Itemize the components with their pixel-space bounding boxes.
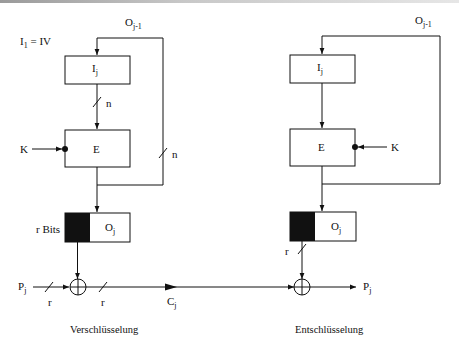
dec-xor-icon xyxy=(294,279,310,295)
dec-key-label: K xyxy=(391,142,399,153)
enc-rbits-block xyxy=(65,213,90,242)
encryption-section xyxy=(32,38,294,295)
dec-feedback-label: Oj-1 xyxy=(415,15,432,29)
ofb-diagram: I1 = IV Oj-1 Ij n E K n r Bits Oj Pj r r… xyxy=(0,0,459,351)
ciphertext-mid-arrow xyxy=(165,284,177,291)
ciphertext-label: Cj xyxy=(167,296,177,310)
enc-feedback-n-label: n xyxy=(172,149,178,160)
enc-init-label: I1 = IV xyxy=(20,36,51,50)
diagram-lines xyxy=(0,0,459,351)
enc-cipher-block-label: E xyxy=(93,144,100,155)
enc-plaintext-width-label: r xyxy=(48,297,52,308)
dec-input-register-label: Ij xyxy=(317,62,323,76)
enc-caption: Verschlüsselung xyxy=(70,325,138,336)
decryption-section xyxy=(290,36,440,295)
dec-key-dot xyxy=(352,144,358,150)
enc-key-label: K xyxy=(20,144,28,155)
dec-output-register-label: Oj xyxy=(331,221,341,235)
enc-input-register-label: Ij xyxy=(92,63,98,77)
dec-rbits-block xyxy=(290,212,315,241)
enc-key-dot xyxy=(62,146,68,152)
enc-output-register-label: Oj xyxy=(105,222,115,236)
dec-rbits-width-label: r xyxy=(285,246,289,257)
dec-plaintext-out-label: Pj xyxy=(363,281,371,295)
dec-cipher-block-label: E xyxy=(318,142,325,153)
enc-xor-out-width-label: r xyxy=(101,297,105,308)
enc-xor-icon xyxy=(70,279,86,295)
dec-caption: Entschlüsselung xyxy=(295,325,363,336)
enc-feedback-label: Oj-1 xyxy=(125,17,142,31)
enc-plaintext-label: Pj xyxy=(18,281,26,295)
enc-rbits-label: r Bits xyxy=(36,224,60,235)
enc-n-label: n xyxy=(106,98,112,109)
